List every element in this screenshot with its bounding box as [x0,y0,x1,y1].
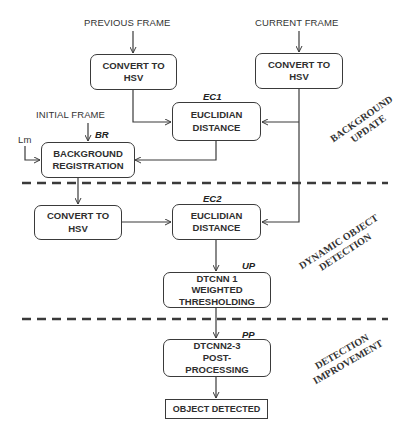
euclidian-distance-ec2-block: EUCLIDIAN DISTANCE [172,204,261,240]
block-label-line: HSV [47,223,109,236]
block-label-line: POST- [185,352,248,364]
wire-convert2-trunk [262,89,299,222]
block-label-line: CONVERT TO [102,60,164,73]
block-label-line: BACKGROUND [52,148,123,161]
block-label-line: DTCNN 1 [179,273,255,285]
convert-hsv-previous-block: CONVERT TO HSV [90,54,177,90]
block-label-line: REGISTRATION [52,160,123,173]
block-label-line: PROCESSING [185,364,248,376]
ec1-tag: EC1 [203,91,221,102]
convert-hsv-background-block: CONVERT TO HSV [34,205,122,240]
block-label-line: HSV [102,72,164,85]
block-label-line: EUCLIDIAN [191,109,243,122]
block-label-line: THRESHOLDING [179,296,255,308]
euclidian-distance-ec1-block: EUCLIDIAN DISTANCE [172,102,261,141]
ec2-tag: EC2 [203,193,221,204]
current-frame-label: CURRENT FRAME [255,17,338,28]
block-label-line: DISTANCE [191,122,243,135]
output-label: OBJECT DETECTED [173,403,261,416]
block-label-line: DTCNN2-3 [185,340,248,352]
object-detected-output: OBJECT DETECTED [165,399,268,419]
background-registration-block: BACKGROUND REGISTRATION [41,142,135,178]
arrow-ec1-to-br [135,141,216,160]
convert-hsv-current-block: CONVERT TO HSV [255,53,343,89]
arrow-lm-to-br [25,146,40,160]
block-label-line: CONVERT TO [47,210,109,223]
previous-frame-label: PREVIOUS FRAME [84,17,170,28]
up-tag: UP [242,260,255,271]
block-label-line: WEIGHTED [179,284,255,296]
arrow-convert1-to-ec1 [133,90,171,122]
block-label-line: HSV [268,71,330,84]
initial-frame-label: INITIAL FRAME [36,109,105,120]
lm-label: Lm [18,134,31,145]
block-label-line: DISTANCE [191,222,243,235]
block-label-line: EUCLIDIAN [191,210,243,223]
dtcnn1-weighted-thresholding-block: DTCNN 1 WEIGHTED THRESHOLDING [163,272,271,308]
br-tag: BR [95,129,109,140]
dtcnn23-post-processing-block: DTCNN2-3 POST- PROCESSING [163,339,271,377]
block-label-line: CONVERT TO [268,59,330,72]
